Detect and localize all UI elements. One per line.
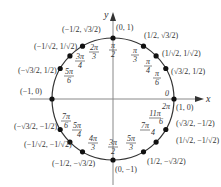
- angle-label-120-den: 3: [91, 52, 96, 61]
- coord-label-0: (1, 0): [176, 103, 194, 112]
- angle-label-300-num: 5π: [127, 134, 136, 143]
- angle-label-270-den: 2: [111, 147, 115, 156]
- coord-label-225: (−1/√2, −1/√2): [24, 140, 72, 149]
- angle-label-30-den: 6: [155, 78, 159, 87]
- point-135: [67, 53, 72, 58]
- angle-label-240-den: 3: [90, 143, 95, 152]
- point-300: [141, 149, 146, 154]
- y-axis-label: y: [103, 9, 109, 20]
- angle-label-60-den: 3: [132, 55, 137, 64]
- angle-label-330-den: 6: [159, 117, 163, 126]
- coord-label-210: (−√3/2, −1/2): [14, 122, 58, 131]
- angle-label-45-den: 4: [146, 66, 150, 75]
- angle-label-2pi: 2π: [162, 102, 171, 111]
- angle-label-315-num: 7π: [141, 121, 150, 130]
- point-330: [163, 127, 168, 132]
- point-0: [171, 96, 176, 101]
- angle-label-135-num: 3π: [75, 52, 85, 61]
- coord-label-315: (1/√2, −1/√2): [176, 136, 219, 145]
- angle-label-0: 0: [165, 89, 169, 98]
- coord-label-90: (0, 1): [116, 23, 134, 32]
- point-240: [80, 149, 85, 154]
- angle-label-120-num: 2π: [90, 43, 99, 52]
- point-120: [80, 44, 85, 49]
- angle-label-60-num: π: [133, 46, 138, 55]
- x-axis-arrow-icon: [195, 96, 204, 102]
- angle-label-315-den: 4: [151, 128, 155, 137]
- point-180: [49, 96, 54, 101]
- angle-label-225-den: 4: [77, 130, 81, 139]
- angle-label-135-den: 4: [78, 61, 82, 70]
- coord-label-180: (−1, 0): [20, 87, 42, 96]
- coord-label-270: (0, −1): [115, 165, 137, 174]
- angle-label-90-num: π: [111, 41, 116, 50]
- x-axis-label: x: [205, 93, 211, 104]
- coord-label-300: (1/2, −√3/2): [147, 157, 186, 166]
- angle-label-270-num: 3π: [108, 138, 118, 147]
- coord-label-135: (−1/√2, 1/√2): [34, 42, 77, 51]
- point-60: [141, 44, 146, 49]
- angle-label-225-num: 5π: [73, 121, 82, 130]
- coord-label-330: (√3/2, −1/2): [176, 119, 215, 128]
- point-210: [58, 127, 63, 132]
- coord-label-240: (−1/2, −√3/2): [52, 159, 96, 168]
- y-axis-arrow-icon: [110, 12, 116, 21]
- angle-label-45-num: π: [146, 57, 151, 66]
- angle-label-300-den: 3: [128, 143, 133, 152]
- coord-label-120: (−1/2, √3/2): [62, 25, 101, 34]
- unit-circle-diagram: x y (1, 0) (√3/2, 1/2) (1/√2, 1/√2) (1/2…: [0, 0, 221, 187]
- angle-label-30-num: π: [155, 69, 160, 78]
- coord-label-45: (1/√2, 1/√2): [162, 49, 201, 58]
- point-150: [58, 66, 63, 71]
- angle-label-150-num: 5π: [65, 67, 74, 76]
- angle-label-90-den: 2: [111, 50, 115, 59]
- angle-label-150-den: 6: [67, 76, 71, 85]
- point-315: [154, 140, 159, 145]
- point-30: [163, 66, 168, 71]
- point-90: [110, 35, 115, 40]
- point-45: [154, 53, 159, 58]
- coord-label-150: (−√3/2, 1/2): [18, 66, 57, 75]
- point-270: [110, 157, 115, 162]
- angle-label-210-den: 6: [64, 121, 68, 130]
- angle-label-240-num: 4π: [89, 134, 98, 143]
- coord-label-60: (1/2, √3/2): [144, 31, 179, 40]
- angle-label-210-num: 7π: [62, 112, 71, 121]
- coord-label-30: (√3/2, 1/2): [171, 67, 206, 76]
